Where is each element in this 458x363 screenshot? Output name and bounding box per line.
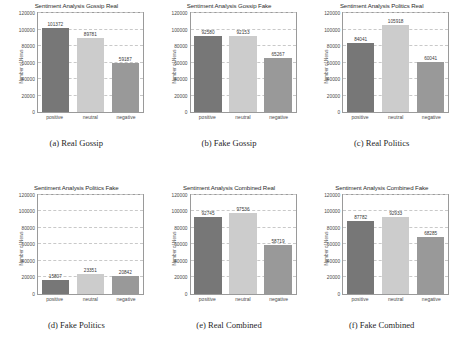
y-tick-label: 120000 <box>171 192 187 197</box>
bar-value-label: 23351 <box>84 268 97 273</box>
bar-slot: 92580 <box>194 13 221 112</box>
y-tick-label: 20000 <box>174 93 187 98</box>
bar-slot: 20842 <box>112 195 139 294</box>
x-tick-neutral: neutral <box>229 296 257 302</box>
chart-caption-f: (f) Fake Combined <box>349 320 414 330</box>
bar-value-label: 15807 <box>49 274 62 279</box>
bar-slot: 68285 <box>417 195 444 294</box>
chart-panel-d: Sentiment Analysis Politics Fake Number … <box>5 182 148 315</box>
x-axis-ticks-a: positiveneutralnegative <box>37 114 144 120</box>
y-tick-label: 100000 <box>324 27 340 32</box>
bar-neutral[interactable]: 89781 <box>77 38 104 112</box>
y-tick-label: 40000 <box>327 77 340 82</box>
x-tick-positive: positive <box>346 296 374 302</box>
bar-value-label: 60041 <box>424 56 437 61</box>
bar-positive[interactable]: 15807 <box>42 280 69 293</box>
bar-neutral[interactable]: 97536 <box>229 213 256 293</box>
chart-cell-c: Sentiment Analysis Politics Real Number … <box>305 0 458 182</box>
x-axis-ticks-d: positiveneutralnegative <box>37 296 144 302</box>
y-tick-label: 100000 <box>19 27 35 32</box>
chart-caption-d: (d) Fake Politics <box>48 320 105 330</box>
bar-positive[interactable]: 92580 <box>194 36 221 112</box>
y-tick-label: 60000 <box>174 242 187 247</box>
bar-neutral[interactable]: 105918 <box>382 25 409 112</box>
bar-negative[interactable]: 60041 <box>417 62 444 112</box>
x-tick-neutral: neutral <box>229 114 257 120</box>
bar-neutral[interactable]: 23351 <box>77 274 104 293</box>
y-tick-label: 80000 <box>21 225 34 230</box>
bar-slot: 65267 <box>264 13 291 112</box>
bar-negative[interactable]: 65267 <box>264 58 291 112</box>
plot-area-f: 0200004000060000800001000001200008778292… <box>342 194 449 295</box>
bar-value-label: 92745 <box>201 211 214 216</box>
y-tick-label: 0 <box>32 291 35 296</box>
plot-area-d: 0200004000060000800001000001200001580723… <box>37 194 144 295</box>
chart-caption-c: (c) Real Politics <box>354 138 409 148</box>
y-tick-label: 0 <box>338 110 341 115</box>
y-tick-label: 40000 <box>327 258 340 263</box>
plot-area-b: 0200004000060000800001000001200009258092… <box>190 12 297 113</box>
bar-value-label: 101372 <box>47 22 63 27</box>
chart-caption-a: (a) Real Gossip <box>50 138 103 148</box>
bar-group: 925809215365267 <box>191 13 296 112</box>
y-tick-label: 0 <box>32 110 35 115</box>
bar-neutral[interactable]: 92153 <box>229 36 256 112</box>
plot-area-a: 0200004000060000800001000001200001013728… <box>37 12 144 113</box>
chart-cell-f: Sentiment Analysis Combined Fake Number … <box>305 182 458 363</box>
chart-panel-b: Sentiment Analysis Gossip Fake Number of… <box>158 0 301 133</box>
y-tick-label: 120000 <box>324 192 340 197</box>
figure-row-top: Sentiment Analysis Gossip Real Number of… <box>0 0 458 182</box>
plot-area-e: 0200004000060000800001000001200009274597… <box>190 194 297 295</box>
x-tick-positive: positive <box>193 296 221 302</box>
y-tick-label: 120000 <box>19 11 35 16</box>
bar-group: 927459753658719 <box>191 195 296 294</box>
y-tick-label: 100000 <box>19 209 35 214</box>
bar-positive[interactable]: 92745 <box>194 217 221 294</box>
y-tick-label: 120000 <box>171 11 187 16</box>
bar-slot: 15807 <box>42 195 69 294</box>
x-tick-negative: negative <box>265 296 293 302</box>
bar-value-label: 68285 <box>424 231 437 236</box>
bar-negative[interactable]: 20842 <box>112 276 139 293</box>
y-tick-label: 0 <box>185 291 188 296</box>
chart-panel-e: Sentiment Analysis Combined Real Number … <box>158 182 301 315</box>
bar-neutral[interactable]: 92933 <box>382 217 409 294</box>
bar-negative[interactable]: 59187 <box>112 63 139 112</box>
chart-cell-b: Sentiment Analysis Gossip Fake Number of… <box>153 0 306 182</box>
y-tick-label: 40000 <box>174 258 187 263</box>
chart-cell-a: Sentiment Analysis Gossip Real Number of… <box>0 0 153 182</box>
y-tick-label: 80000 <box>21 44 34 49</box>
y-tick-label: 60000 <box>327 60 340 65</box>
bar-positive[interactable]: 87782 <box>347 221 374 293</box>
x-tick-neutral: neutral <box>382 296 410 302</box>
x-tick-negative: negative <box>417 114 445 120</box>
bar-value-label: 65267 <box>271 52 284 57</box>
bar-value-label: 87782 <box>354 215 367 220</box>
bar-slot: 105918 <box>382 13 409 112</box>
x-tick-positive: positive <box>41 296 69 302</box>
y-tick-label: 80000 <box>174 44 187 49</box>
bar-negative[interactable]: 68285 <box>417 237 444 293</box>
y-tick-label: 100000 <box>171 27 187 32</box>
y-tick-label: 80000 <box>327 225 340 230</box>
bar-slot: 92933 <box>382 195 409 294</box>
y-tick-label: 80000 <box>174 225 187 230</box>
bar-positive[interactable]: 101372 <box>42 28 69 112</box>
y-tick-label: 80000 <box>327 44 340 49</box>
bar-slot: 60041 <box>417 13 444 112</box>
bar-value-label: 84041 <box>354 37 367 42</box>
y-tick-label: 20000 <box>174 275 187 280</box>
bar-positive[interactable]: 84041 <box>347 43 374 112</box>
y-tick-label: 120000 <box>19 192 35 197</box>
y-tick-label: 20000 <box>21 275 34 280</box>
bar-slot: 87782 <box>347 195 374 294</box>
y-tick-label: 20000 <box>21 93 34 98</box>
x-axis-ticks-f: positiveneutralnegative <box>342 296 449 302</box>
y-tick-label: 0 <box>338 291 341 296</box>
bar-negative[interactable]: 58719 <box>264 245 291 293</box>
bar-slot: 89781 <box>77 13 104 112</box>
chart-caption-b: (b) Fake Gossip <box>202 138 257 148</box>
y-tick-label: 20000 <box>327 93 340 98</box>
bar-slot: 101372 <box>42 13 69 112</box>
bar-value-label: 20842 <box>119 270 132 275</box>
